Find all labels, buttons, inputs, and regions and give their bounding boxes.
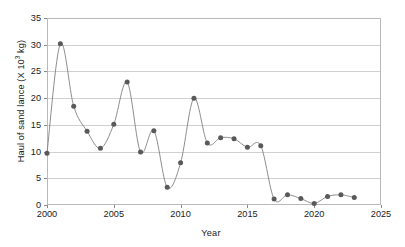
x-tick-mark [314, 205, 315, 208]
plot-area [47, 18, 381, 205]
gridline-y [48, 45, 380, 46]
y-tick-label: 35 [15, 13, 41, 23]
x-tick-label: 2015 [227, 209, 267, 219]
line-chart: Haul of sand lance (X 103 kg) 0510152025… [0, 0, 405, 247]
y-tick-label: 20 [15, 93, 41, 103]
x-tick-mark [181, 205, 182, 208]
gridline-y [48, 125, 380, 126]
y-tick-label: 25 [15, 66, 41, 76]
y-axis-title-exponent: 3 [14, 56, 21, 60]
x-tick-mark [114, 205, 115, 208]
y-tick-mark [44, 45, 47, 46]
x-tick-mark [247, 205, 248, 208]
y-tick-mark [44, 18, 47, 19]
y-tick-mark [44, 152, 47, 153]
gridline-y [48, 178, 380, 179]
y-tick-label: 5 [15, 173, 41, 183]
x-axis-title: Year [40, 228, 382, 238]
y-tick-mark [44, 71, 47, 72]
x-tick-label: 2010 [161, 209, 201, 219]
y-tick-label: 10 [15, 147, 41, 157]
x-tick-label: 2020 [294, 209, 334, 219]
gridline-y [48, 98, 380, 99]
y-tick-mark [44, 178, 47, 179]
x-tick-label: 2000 [27, 209, 67, 219]
x-tick-label: 2005 [94, 209, 134, 219]
y-tick-mark [44, 98, 47, 99]
y-tick-mark [44, 125, 47, 126]
x-tick-mark [47, 205, 48, 208]
y-tick-label: 30 [15, 40, 41, 50]
x-tick-mark [381, 205, 382, 208]
gridline-y [48, 152, 380, 153]
y-tick-label: 15 [15, 120, 41, 130]
x-tick-label: 2025 [361, 209, 401, 219]
gridline-y [48, 71, 380, 72]
